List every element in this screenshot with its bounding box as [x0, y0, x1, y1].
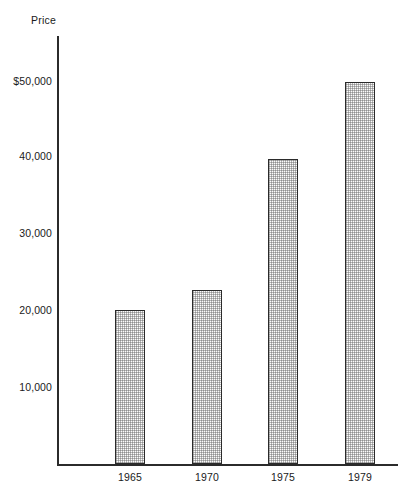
y-axis-title: Price	[31, 14, 56, 26]
bar-chart: Price 10,000 20,000 30,000 40,000 $50,00…	[0, 0, 416, 483]
x-tick-label-1965: 1965	[100, 471, 160, 483]
x-tick-label-1979: 1979	[330, 471, 390, 483]
x-tick-label-1975: 1975	[253, 471, 313, 483]
x-axis-line	[57, 464, 398, 466]
x-tick-label-1970: 1970	[177, 471, 237, 483]
y-tick-label: 20,000	[0, 304, 52, 316]
y-tick-label: 40,000	[0, 150, 52, 162]
bar-1979	[345, 82, 375, 465]
bar-1965	[115, 310, 145, 464]
y-axis-line	[57, 36, 59, 466]
y-tick-label: 30,000	[0, 227, 52, 239]
y-tick-label: $50,000	[0, 75, 52, 87]
bar-1975	[268, 159, 298, 464]
bar-1970	[192, 290, 222, 464]
y-tick-label: 10,000	[0, 381, 52, 393]
